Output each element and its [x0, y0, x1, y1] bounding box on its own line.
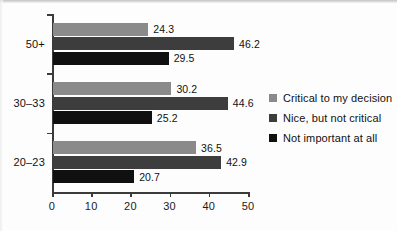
x-axis-tick-label: 50: [242, 200, 255, 212]
bar-chart: 50+30–3320–23 01020304050 24.346.229.530…: [0, 0, 397, 231]
bar[interactable]: [53, 23, 148, 36]
bar-value-label: 25.2: [157, 112, 178, 124]
bar-value-label: 24.3: [153, 23, 174, 35]
bar-group: 24.346.229.5: [53, 23, 249, 65]
bar-value-label: 44.6: [233, 97, 254, 109]
x-axis-tick-label: 40: [202, 200, 215, 212]
y-axis-category-label: 20–23: [13, 156, 45, 168]
y-axis-tick: [47, 14, 52, 16]
bar-row: 30.2: [53, 82, 249, 95]
y-axis-tick: [47, 133, 52, 135]
bar-row: 36.5: [53, 141, 249, 154]
bar-row: 44.6: [53, 97, 249, 110]
x-axis-tick: [130, 192, 132, 197]
bar-group: 36.542.920.7: [53, 141, 249, 183]
bar[interactable]: [53, 170, 134, 183]
bar[interactable]: [53, 52, 169, 65]
bar[interactable]: [53, 37, 234, 50]
bar[interactable]: [53, 97, 228, 110]
y-axis-category-label: 50+: [26, 38, 45, 50]
bar-group: 30.244.625.2: [53, 82, 249, 124]
x-axis-tick-label: 20: [124, 200, 137, 212]
legend-label: Not important at all: [283, 132, 377, 144]
bar[interactable]: [53, 141, 196, 154]
bar[interactable]: [53, 82, 171, 95]
x-axis-tick: [209, 192, 211, 197]
bar-row: 42.9: [53, 156, 249, 169]
bar-row: 20.7: [53, 170, 249, 183]
plot-area: 01020304050 24.346.229.530.244.625.236.5…: [52, 14, 248, 192]
legend-item[interactable]: Nice, but not critical: [269, 108, 392, 128]
x-axis-tick: [52, 192, 54, 197]
bar-value-label: 46.2: [239, 38, 260, 50]
bar-row: 25.2: [53, 111, 249, 124]
y-axis-tick: [47, 73, 52, 75]
x-axis-tick-label: 0: [49, 200, 55, 212]
legend: Critical to my decisionNice, but not cri…: [269, 88, 392, 148]
bar-value-label: 42.9: [226, 156, 247, 168]
bar-value-label: 30.2: [176, 83, 197, 95]
bar-row: 24.3: [53, 23, 249, 36]
legend-label: Critical to my decision: [283, 92, 392, 104]
x-axis-tick-label: 30: [163, 200, 176, 212]
legend-item[interactable]: Critical to my decision: [269, 88, 392, 108]
x-axis-tick-label: 10: [85, 200, 98, 212]
x-axis-tick: [248, 192, 250, 197]
bar[interactable]: [53, 156, 221, 169]
bar-row: 46.2: [53, 37, 249, 50]
legend-label: Nice, but not critical: [283, 112, 381, 124]
legend-item[interactable]: Not important at all: [269, 128, 392, 148]
x-axis-tick: [170, 192, 172, 197]
bar-row: 29.5: [53, 52, 249, 65]
scan-artifact-top: [0, 0, 397, 3]
y-axis-category-label: 30–33: [13, 97, 45, 109]
x-axis-line: [52, 192, 248, 194]
legend-swatch-icon: [269, 114, 277, 122]
legend-swatch-icon: [269, 94, 277, 102]
x-axis-tick: [91, 192, 93, 197]
bar-value-label: 36.5: [201, 142, 222, 154]
bar[interactable]: [53, 111, 152, 124]
bar-value-label: 20.7: [139, 171, 160, 183]
legend-swatch-icon: [269, 134, 277, 142]
bar-value-label: 29.5: [174, 52, 195, 64]
y-axis-category-labels: 50+30–3320–23: [0, 14, 45, 192]
